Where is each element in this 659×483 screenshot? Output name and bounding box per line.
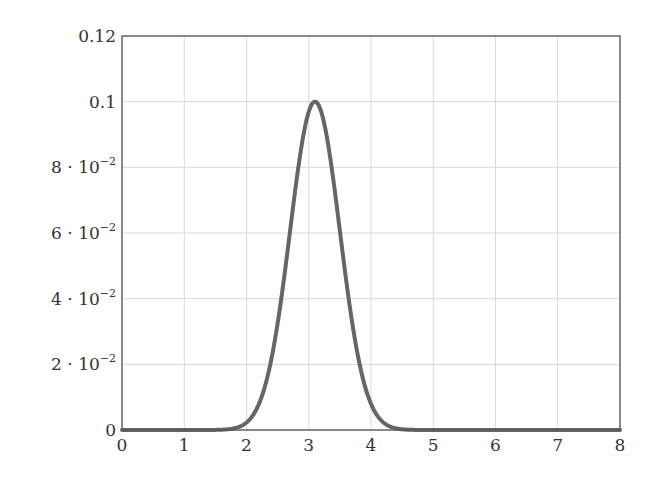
- x-tick-label: 6: [490, 435, 501, 455]
- y-tick-label: 4 · 10−2: [51, 287, 116, 309]
- x-tick-label: 0: [117, 435, 128, 455]
- x-tick-label: 2: [241, 435, 252, 455]
- y-tick-label: 0.12: [78, 26, 116, 46]
- y-tick-label: 0: [105, 420, 116, 440]
- y-tick-label: 8 · 10−2: [51, 155, 116, 177]
- x-axis-tick-labels: 012345678: [117, 435, 626, 455]
- y-tick-label: 2 · 10−2: [51, 352, 116, 374]
- x-tick-label: 7: [552, 435, 563, 455]
- x-tick-label: 5: [428, 435, 439, 455]
- x-tick-label: 1: [179, 435, 190, 455]
- x-tick-label: 8: [615, 435, 626, 455]
- x-tick-label: 4: [366, 435, 377, 455]
- y-axis-tick-labels: 02 · 10−24 · 10−26 · 10−28 · 10−20.10.12: [51, 26, 116, 440]
- y-tick-label: 6 · 10−2: [51, 221, 116, 243]
- chart-canvas: 012345678 02 · 10−24 · 10−26 · 10−28 · 1…: [0, 0, 659, 483]
- x-tick-label: 3: [303, 435, 314, 455]
- y-tick-label: 0.1: [89, 92, 116, 112]
- grid-lines: [122, 36, 620, 430]
